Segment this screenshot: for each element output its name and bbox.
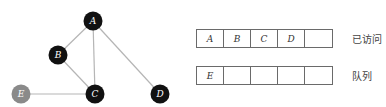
visited-label: 已访问 [352, 31, 382, 46]
visited-cell: A [197, 30, 224, 47]
node-label-C: C [92, 89, 99, 99]
graph-diagram: ABCDE [0, 0, 190, 107]
graph-edges [21, 21, 160, 94]
queue-cell [305, 67, 332, 84]
node-label-B: B [54, 50, 62, 60]
graph-nodes: ABCDE [12, 12, 170, 104]
queue-cell [224, 67, 251, 84]
queue-label: 队列 [352, 68, 372, 83]
visited-cell: B [224, 30, 251, 47]
node-label-E: E [17, 89, 25, 99]
edge-A-D [93, 21, 160, 94]
queue-cell [251, 67, 278, 84]
visited-array: A B C D [196, 29, 333, 48]
node-label-D: D [155, 89, 163, 99]
visited-cell: C [251, 30, 278, 47]
node-label-A: A [89, 16, 97, 26]
edge-A-C [93, 21, 95, 94]
queue-array: E [196, 66, 333, 85]
queue-cell [278, 67, 305, 84]
queue-cell: E [197, 67, 224, 84]
visited-cell [305, 30, 332, 47]
visited-cell: D [278, 30, 305, 47]
